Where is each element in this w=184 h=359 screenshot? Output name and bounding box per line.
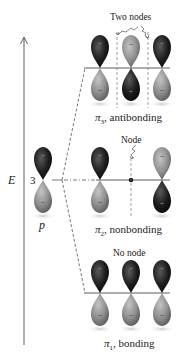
pi2-orbital-3: − + — [149, 147, 175, 220]
pi2-orbitals: + − − + — [87, 145, 175, 220]
energy-axis-label: E — [8, 174, 15, 186]
pi1-orbital-2: + − — [118, 260, 144, 333]
energy-axis — [21, 37, 28, 345]
svg-text:−: − — [129, 311, 134, 320]
pi2-node-pointer — [131, 145, 136, 158]
svg-text:+: + — [41, 152, 45, 160]
svg-text:+: + — [98, 265, 102, 273]
svg-text:+: + — [129, 88, 133, 96]
pi3-orbitals: + − − + + − — [87, 26, 175, 108]
pi2-label: π2, nonbonding — [95, 224, 162, 238]
svg-text:−: − — [160, 86, 165, 95]
pi3-node-label: Two nodes — [110, 13, 151, 23]
pi2-node-label: Node — [121, 136, 142, 146]
svg-text:−: − — [41, 198, 46, 207]
svg-text:−: − — [98, 198, 103, 207]
svg-text:−: − — [160, 311, 165, 320]
svg-text:−: − — [129, 40, 134, 49]
svg-text:+: + — [129, 265, 133, 273]
pi2-orbital-1: + − — [87, 147, 113, 220]
svg-text:+: + — [160, 200, 164, 208]
svg-text:−: − — [98, 86, 103, 95]
atomic-orbital-count: 3 — [30, 175, 36, 186]
pi1-orbital-1: + − — [87, 260, 113, 333]
mo-diagram: + − + − − + + − — [0, 0, 184, 359]
pi3-label: π3, antibonding — [95, 112, 162, 126]
svg-text:+: + — [160, 40, 164, 48]
correlation-lines — [52, 68, 96, 293]
svg-text:+: + — [98, 40, 102, 48]
pi3-orbital-1: + − — [87, 35, 113, 108]
svg-text:+: + — [98, 152, 102, 160]
pi3-orbital-2: − + — [118, 35, 144, 108]
svg-text:−: − — [98, 311, 103, 320]
atomic-orbital-label: p — [39, 219, 45, 231]
pi1-orbital-3: + − — [149, 260, 175, 333]
svg-text:−: − — [160, 152, 165, 161]
pi1-orbitals: + − + − + − — [87, 260, 175, 333]
pi1-node-label: No node — [113, 249, 145, 259]
svg-text:+: + — [160, 265, 164, 273]
pi1-label: π1, bonding — [104, 338, 155, 352]
pi3-orbital-3: + − — [149, 35, 175, 108]
